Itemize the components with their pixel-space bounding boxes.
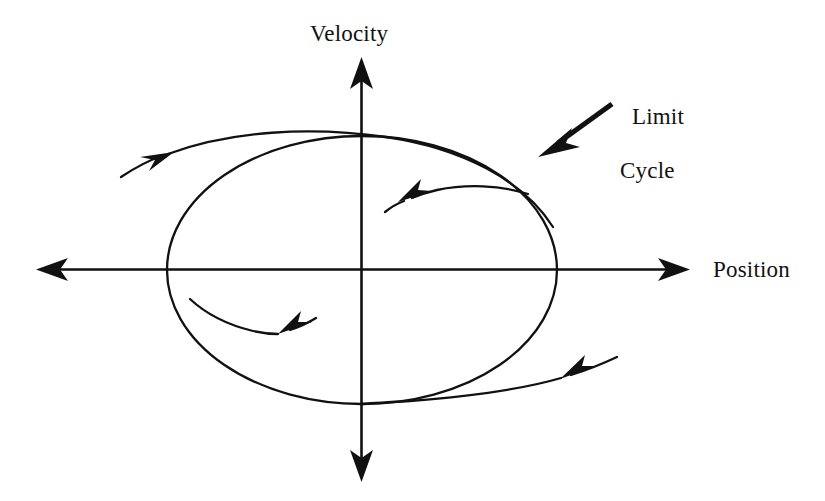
axis-label-velocity: Velocity (310, 20, 388, 47)
limit-cycle-phase-diagram (0, 0, 825, 501)
trajectory-arrowhead-inner-lower-left-icon (278, 311, 312, 334)
annotation-limit-cycle-line1: Limit (632, 104, 684, 129)
limit-cycle-pointer-group (538, 104, 612, 157)
trajectory-outer-lower-right-body (362, 378, 561, 404)
trajectory-arrowhead-outer-lower-right-icon (560, 355, 596, 379)
annotation-limit-cycle-line2: Cycle (620, 157, 684, 184)
axis-label-position: Position (713, 256, 790, 283)
trajectory-arrowhead-upper-left-icon (140, 152, 174, 171)
trajectory-inner-upper-right-tail (385, 201, 404, 212)
trajectory-inner-lower-left-body (190, 299, 278, 334)
trajectory-inner-upper-right-body (412, 186, 528, 198)
trajectory-arrowhead-inner-upper-right-icon (398, 179, 432, 202)
annotation-limit-cycle: Limit Cycle (620, 76, 684, 212)
trajectory-group (121, 131, 617, 404)
